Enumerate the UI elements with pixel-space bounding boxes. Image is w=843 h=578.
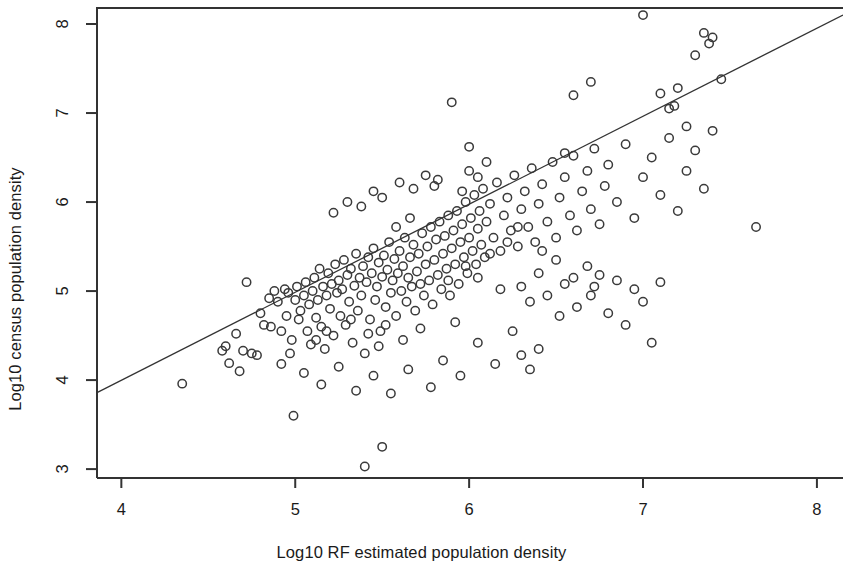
- data-point: [350, 282, 358, 290]
- data-point: [456, 371, 464, 379]
- data-point: [486, 200, 494, 208]
- data-point: [248, 349, 256, 357]
- data-point: [514, 223, 522, 231]
- data-point: [517, 205, 525, 213]
- data-point: [307, 340, 315, 348]
- data-point: [604, 160, 612, 168]
- tick-marks: [86, 24, 817, 488]
- data-point: [434, 271, 442, 279]
- data-point: [317, 380, 325, 388]
- regression-line: [97, 15, 843, 392]
- data-point: [380, 251, 388, 259]
- data-point: [312, 336, 320, 344]
- data-point: [315, 265, 323, 273]
- data-point: [531, 238, 539, 246]
- data-point: [700, 185, 708, 193]
- data-point: [439, 356, 447, 364]
- data-point: [404, 274, 412, 282]
- data-point: [517, 351, 525, 359]
- data-point: [552, 256, 560, 264]
- x-tick-label: 7: [628, 500, 658, 519]
- data-point: [534, 200, 542, 208]
- data-point: [378, 193, 386, 201]
- axis-lines: [97, 8, 843, 478]
- data-point: [395, 178, 403, 186]
- data-point: [371, 296, 379, 304]
- plot-canvas: [0, 0, 843, 578]
- data-point: [235, 367, 243, 375]
- data-point: [503, 193, 511, 201]
- x-tick-label: 5: [280, 500, 310, 519]
- y-tick-label: 5: [53, 276, 71, 306]
- data-point: [569, 274, 577, 282]
- y-axis-title: Log10 census population density: [0, 0, 30, 578]
- data-point: [465, 167, 473, 175]
- data-point: [428, 300, 436, 308]
- data-point: [277, 327, 285, 335]
- data-point: [399, 262, 407, 270]
- data-point: [538, 247, 546, 255]
- data-point: [357, 291, 365, 299]
- data-point: [534, 345, 542, 353]
- data-point: [587, 78, 595, 86]
- data-point: [601, 182, 609, 190]
- data-point: [423, 242, 431, 250]
- x-tick-label: 8: [802, 500, 832, 519]
- data-point: [296, 306, 304, 314]
- data-point: [413, 267, 421, 275]
- data-point: [300, 369, 308, 377]
- data-point: [708, 127, 716, 135]
- data-point: [587, 291, 595, 299]
- data-point: [368, 269, 376, 277]
- data-point: [465, 143, 473, 151]
- data-point: [517, 282, 525, 290]
- data-point: [444, 276, 452, 284]
- data-point: [752, 223, 760, 231]
- data-point: [322, 327, 330, 335]
- data-point: [364, 330, 372, 338]
- data-point: [458, 220, 466, 228]
- data-point: [613, 198, 621, 206]
- data-point: [656, 278, 664, 286]
- data-point: [430, 256, 438, 264]
- data-point: [482, 158, 490, 166]
- data-point: [336, 312, 344, 320]
- plot-frame: [97, 8, 843, 478]
- data-point: [373, 282, 381, 290]
- data-point: [399, 336, 407, 344]
- data-point: [420, 291, 428, 299]
- data-point: [341, 321, 349, 329]
- data-point: [369, 187, 377, 195]
- data-point: [604, 309, 612, 317]
- data-point: [312, 314, 320, 322]
- data-point: [291, 296, 299, 304]
- data-point: [441, 232, 449, 240]
- data-point: [449, 226, 457, 234]
- regression-line-segment: [97, 15, 843, 392]
- data-point: [425, 276, 433, 284]
- data-point: [639, 173, 647, 181]
- x-tick-label: 4: [106, 500, 136, 519]
- data-point: [345, 298, 353, 306]
- data-point: [630, 214, 638, 222]
- data-point: [322, 291, 330, 299]
- data-point: [472, 260, 480, 268]
- data-point: [451, 260, 459, 268]
- data-point: [456, 238, 464, 246]
- data-point: [406, 214, 414, 222]
- data-point: [232, 330, 240, 338]
- data-point: [468, 247, 476, 255]
- data-point: [352, 249, 360, 257]
- data-point: [421, 260, 429, 268]
- data-point: [421, 171, 429, 179]
- data-point: [665, 134, 673, 142]
- data-point: [308, 287, 316, 295]
- data-point: [578, 187, 586, 195]
- data-point: [378, 443, 386, 451]
- data-point: [411, 306, 419, 314]
- data-point: [448, 244, 456, 252]
- data-point: [362, 278, 370, 286]
- data-point: [510, 171, 518, 179]
- data-point: [225, 359, 233, 367]
- data-point: [460, 253, 468, 261]
